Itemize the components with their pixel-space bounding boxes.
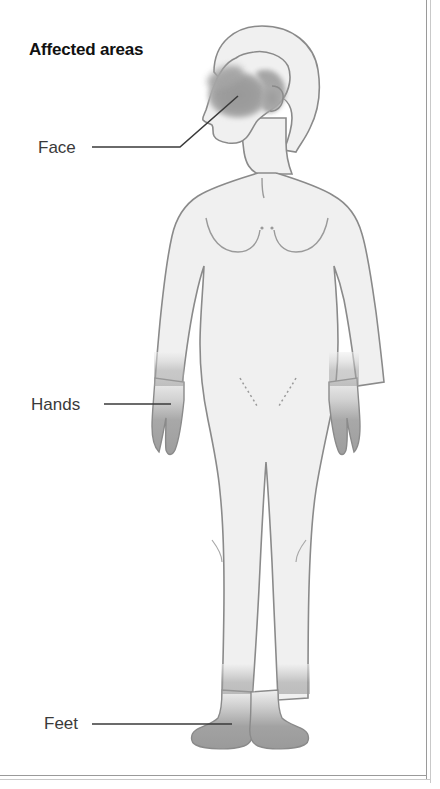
affected-region-right-hand bbox=[329, 352, 360, 455]
affected-region-right-foot bbox=[250, 664, 310, 749]
affected-region-left-foot bbox=[192, 664, 254, 749]
body-figure bbox=[92, 26, 384, 749]
callout-label-hands: Hands bbox=[31, 395, 80, 415]
callout-label-feet: Feet bbox=[44, 714, 78, 734]
torso-and-limbs-shape bbox=[155, 173, 384, 702]
illustration-page: Affected areas bbox=[0, 0, 440, 789]
callout-label-face: Face bbox=[38, 138, 76, 158]
